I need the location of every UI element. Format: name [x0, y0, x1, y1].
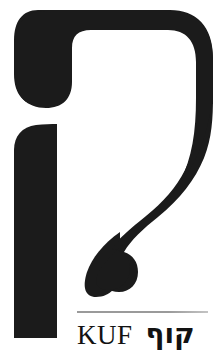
- caption-divider-rule: [77, 311, 208, 313]
- kuf-letter-plate: KUF קוף: [0, 0, 213, 354]
- caption-text-row: KUF קוף: [77, 316, 209, 354]
- kuf-left-descender-path: [14, 124, 57, 338]
- kuf-right-leg-path: [96, 76, 213, 290]
- caption-hebrew-name: קוף: [146, 320, 195, 348]
- hebrew-letter-kuf-icon: [0, 0, 213, 354]
- glyph-artwork: [0, 0, 213, 354]
- kuf-top-bar-path: [15, 11, 213, 108]
- caption-block: KUF קוף: [77, 306, 209, 354]
- caption-latin-name: KUF: [77, 322, 133, 349]
